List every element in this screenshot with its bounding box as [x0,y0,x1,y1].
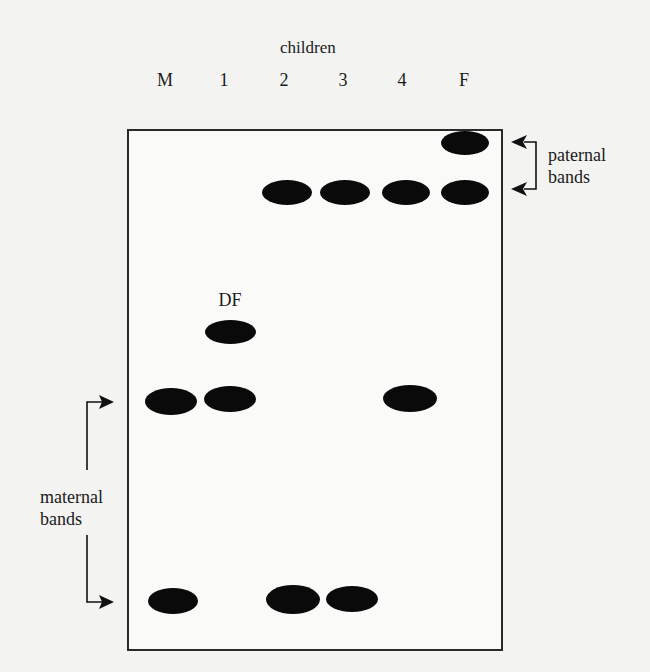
maternal-bracket-icon [87,395,114,609]
annotation-arrows [0,0,650,672]
paternal-bracket-icon [511,135,536,196]
